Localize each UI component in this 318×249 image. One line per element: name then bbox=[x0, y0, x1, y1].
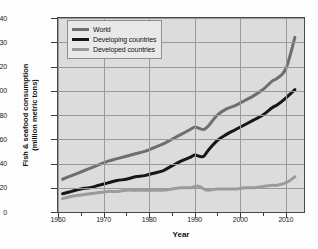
x-axis-tick-mark bbox=[240, 213, 241, 218]
y-axis-title-line1: Fish & seafood consumption bbox=[21, 30, 30, 200]
gridline-horizontal bbox=[58, 67, 304, 68]
x-axis-minor-tick-mark bbox=[81, 213, 82, 216]
legend-swatch-world bbox=[72, 28, 89, 31]
legend-label-developing-countries: Developing countries bbox=[93, 36, 156, 44]
x-axis-tick-mark bbox=[286, 213, 287, 218]
chart-legend: World Developing countries Developed cou… bbox=[67, 20, 162, 59]
y-axis-tick-label: 60 bbox=[0, 136, 7, 143]
x-axis-minor-tick-mark bbox=[126, 213, 127, 216]
y-axis-title-line2: (million metric tons) bbox=[30, 30, 39, 200]
x-axis-tick-mark bbox=[195, 213, 196, 218]
gridline-horizontal bbox=[58, 115, 304, 116]
y-axis-tick-label: 20 bbox=[0, 184, 7, 191]
y-axis-tick-label: 100 bbox=[0, 87, 7, 94]
gridline-vertical bbox=[58, 18, 59, 212]
legend-item-developing-countries: Developing countries bbox=[72, 35, 156, 44]
y-axis-tick-label: 80 bbox=[0, 112, 7, 119]
gridline-horizontal bbox=[58, 164, 304, 165]
legend-label-developed-countries: Developed countries bbox=[93, 46, 155, 54]
gridline-vertical bbox=[195, 18, 196, 212]
y-axis-title: Fish & seafood consumption (million metr… bbox=[21, 30, 39, 200]
gridline-horizontal bbox=[58, 18, 304, 19]
legend-item-developed-countries: Developed countries bbox=[72, 45, 156, 54]
x-axis-tick-mark bbox=[104, 213, 105, 218]
legend-label-world: World bbox=[93, 26, 111, 34]
x-axis-tick-mark bbox=[149, 213, 150, 218]
legend-item-world: World bbox=[72, 25, 156, 34]
legend-swatch-developed-countries bbox=[72, 48, 89, 51]
gridline-horizontal bbox=[58, 188, 304, 189]
chart-figure: 020406080100120130140 196019701980199020… bbox=[0, 0, 318, 249]
x-axis-minor-tick-mark bbox=[217, 213, 218, 216]
y-axis-tick-label: 130 bbox=[0, 39, 7, 46]
gridline-horizontal bbox=[58, 139, 304, 140]
x-axis-minor-tick-mark bbox=[263, 213, 264, 216]
y-axis-tick-label: 120 bbox=[0, 63, 7, 70]
gridline-horizontal bbox=[58, 91, 304, 92]
x-axis-title: Year bbox=[57, 230, 305, 239]
legend-swatch-developing-countries bbox=[72, 38, 89, 41]
y-axis-tick-label: 40 bbox=[0, 160, 7, 167]
series-line-developing-countries bbox=[63, 90, 295, 194]
gridline-vertical bbox=[286, 18, 287, 212]
x-axis-minor-tick-mark bbox=[172, 213, 173, 216]
gridline-vertical bbox=[240, 18, 241, 212]
y-axis-tick-label: 0 bbox=[0, 209, 7, 216]
x-axis-tick-mark bbox=[58, 213, 59, 218]
y-axis-tick-label: 140 bbox=[0, 15, 7, 22]
